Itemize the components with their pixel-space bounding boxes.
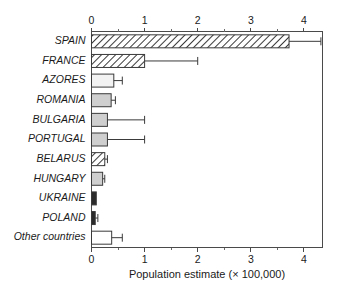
- category-label-other-countries: Other countries: [14, 230, 87, 242]
- chart-canvas: SPAINFRANCEAZORESROMANIABULGARIAPORTUGAL…: [0, 0, 339, 286]
- category-label-bulgaria: BULGARIA: [32, 113, 85, 125]
- x-tick-label-top: 4: [301, 14, 307, 26]
- bar-bulgaria: [92, 113, 108, 126]
- category-label-romania: ROMANIA: [36, 93, 85, 105]
- bar-ukraine: [92, 192, 97, 205]
- bar-spain: [92, 35, 290, 48]
- bar-hungary: [92, 172, 103, 185]
- x-tick-label-top: 3: [248, 14, 254, 26]
- bar-romania: [92, 94, 112, 107]
- category-label-poland: POLAND: [42, 211, 86, 223]
- bar-poland: [92, 212, 96, 225]
- population-estimate-bar-chart: SPAINFRANCEAZORESROMANIABULGARIAPORTUGAL…: [0, 0, 339, 286]
- category-label-azores: AZORES: [41, 73, 85, 85]
- x-tick-label-bottom: 4: [301, 253, 307, 265]
- bar-france: [92, 54, 145, 67]
- category-labels-layer: SPAINFRANCEAZORESROMANIABULGARIAPORTUGAL…: [14, 34, 87, 242]
- x-tick-label-top: 1: [142, 14, 148, 26]
- category-label-ukraine: UKRAINE: [39, 191, 87, 203]
- x-tick-label-top: 2: [195, 14, 201, 26]
- x-tick-label-bottom: 3: [248, 253, 254, 265]
- x-tick-label-bottom: 2: [195, 253, 201, 265]
- x-axis-title: Population estimate (× 100,000): [129, 268, 285, 280]
- category-label-france: FRANCE: [42, 54, 86, 66]
- bars-layer: [92, 35, 321, 244]
- bar-other-countries: [92, 231, 112, 244]
- x-tick-label-bottom: 0: [89, 253, 95, 265]
- category-label-portugal: PORTUGAL: [28, 132, 86, 144]
- bar-azores: [92, 74, 114, 87]
- bar-portugal: [92, 133, 108, 146]
- bar-belarus: [92, 153, 105, 166]
- category-label-spain: SPAIN: [55, 34, 86, 46]
- category-label-belarus: BELARUS: [36, 152, 85, 164]
- x-tick-label-bottom: 1: [142, 253, 148, 265]
- x-tick-label-top: 0: [89, 14, 95, 26]
- category-label-hungary: HUNGARY: [33, 172, 86, 184]
